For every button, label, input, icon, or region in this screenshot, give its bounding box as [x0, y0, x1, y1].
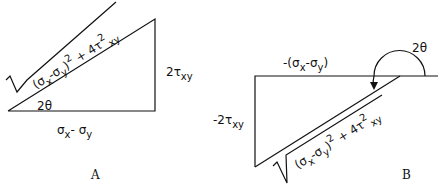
vertical-side-label-b: -2τxy [213, 114, 244, 126]
arrow-head-icon [370, 82, 378, 90]
mohr-triangles-diagram: (σx-σy)2 + 4τ2xy 2τxy 2θ σx- σy A -(σx-σ… [0, 0, 443, 188]
angle-label-b: 2θ [412, 42, 427, 54]
vertical-side-label-a: 2τxy [166, 66, 193, 78]
horizontal-side-label-a: σx- σy [57, 124, 92, 136]
horizontal-side-label-b: -(σx-σy) [283, 57, 328, 69]
diagram-lines [0, 0, 443, 188]
angle-arc-b [373, 51, 425, 87]
panel-label-a: A [91, 168, 100, 182]
panel-label-b: B [402, 168, 411, 182]
triangle-b [255, 51, 438, 184]
angle-label-a: 2θ [37, 100, 52, 112]
